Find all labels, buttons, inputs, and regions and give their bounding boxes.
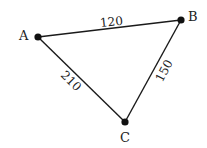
node-label-c: C [120,130,130,145]
edge-a-c [38,37,125,122]
node-b [177,16,184,23]
edge-b-c [125,20,181,122]
edge-weight-b-c: 150 [153,57,176,84]
edge-weight-a-c: 210 [58,68,84,94]
edge-weight-a-b: 120 [99,14,123,30]
node-a [34,33,41,40]
node-label-b: B [188,9,198,24]
node-label-a: A [18,28,29,43]
node-c [121,118,128,125]
triangle-graph-diagram: A B C 120 210 150 [0,0,207,148]
